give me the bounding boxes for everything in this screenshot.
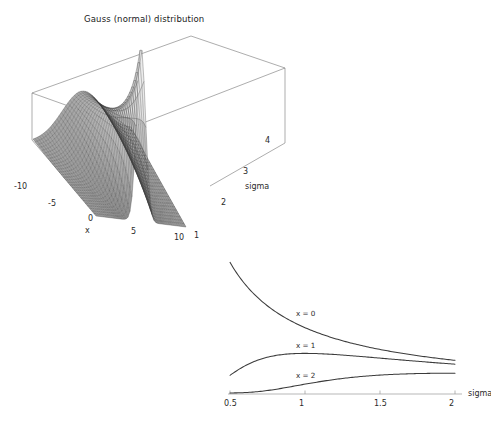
line-plot-tick-label-2: 1.5: [374, 399, 387, 408]
figure-root: Gauss (normal) distribution -10 -5: [0, 0, 491, 429]
line-plot-curves: [230, 262, 455, 393]
curve-label-x1: x = 1: [296, 341, 315, 350]
surface-plot-title: Gauss (normal) distribution: [84, 14, 204, 24]
surface-sigma-axis-label: sigma: [245, 182, 269, 191]
surface-plot: -10 -5 0 5 10 x 1 2 3 4 sigma: [14, 36, 285, 242]
curve-label-x2: x = 2: [296, 371, 315, 380]
plot-canvas: Gauss (normal) distribution -10 -5: [0, 0, 491, 429]
surface-sigma-tick-0: 1: [194, 231, 199, 240]
surface-sigma-tick-3: 4: [265, 136, 270, 145]
line-plot: x = 0 x = 1 x = 2 0.511.52 sigma: [224, 262, 491, 408]
line-plot-tick-label-0: 0.5: [224, 399, 237, 408]
surface-x-tick-3: 5: [131, 227, 136, 236]
line-plot-tick-label-3: 2: [449, 399, 454, 408]
line-plot-tick-label-1: 1: [299, 399, 304, 408]
line-plot-x-axis-label: sigma: [468, 389, 491, 398]
surface-sigma-axis: 1 2 3 4 sigma: [194, 136, 270, 240]
surface-x-tick-4: 10: [174, 233, 184, 242]
line-plot-curve-x2: [230, 373, 455, 393]
surface-sigma-tick-2: 3: [243, 167, 248, 176]
surface-x-axis-label: x: [85, 226, 90, 235]
surface-x-tick-0: -10: [14, 182, 27, 191]
curve-label-x0: x = 0: [296, 309, 316, 318]
line-plot-curve-x0: [230, 262, 455, 360]
surface-x-tick-2: 0: [88, 214, 93, 223]
surface-x-tick-1: -5: [48, 199, 56, 208]
line-plot-tick-labels: 0.511.52: [224, 399, 454, 408]
surface-sigma-tick-1: 2: [221, 198, 226, 207]
